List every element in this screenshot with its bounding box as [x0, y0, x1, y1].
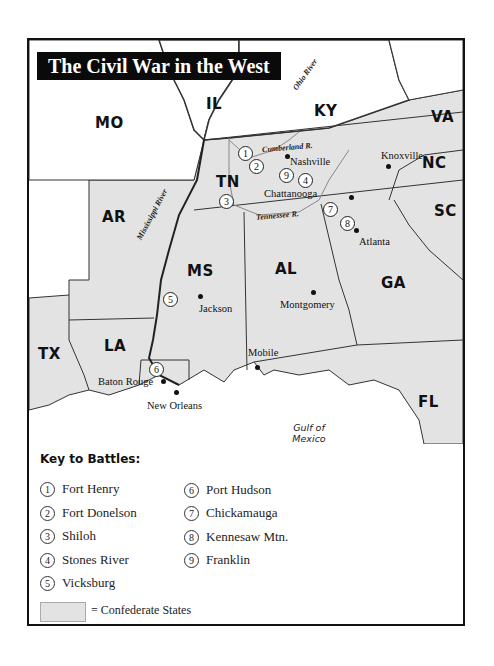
key-item-1: 1 Fort Henry [40, 481, 119, 497]
city-label-atlanta: Atlanta [359, 236, 390, 247]
state-label-nc: NC [422, 154, 447, 172]
key-label-3: Shiloh [62, 528, 96, 544]
key-label-5: Vicksburg [62, 575, 115, 591]
state-label-ms: MS [187, 262, 214, 280]
key-item-9: 9 Franklin [184, 552, 250, 568]
key-label-6: Port Hudson [206, 482, 271, 498]
map-frame: The Civil War in the West MO IL KY VA NC… [27, 38, 465, 626]
battle-marker-3: 3 [219, 194, 234, 209]
key-item-6: 6 Port Hudson [184, 482, 271, 498]
water-label-gulf-of-mexico: Gulf of Mexico [279, 422, 339, 444]
city-label-new-orleans: New Orleans [147, 400, 202, 411]
key-item-4: 4 Stones River [40, 552, 129, 568]
key-label-8: Kennesaw Mtn. [206, 529, 288, 545]
state-label-va: VA [431, 108, 454, 126]
key-number-4: 4 [40, 553, 55, 568]
key-item-2: 2 Fort Donelson [40, 505, 137, 521]
city-label-nashville: Nashville [290, 156, 330, 167]
battle-key: Key to Battles: 1 Fort Henry 2 Fort Done… [29, 444, 463, 624]
key-label-1: Fort Henry [62, 481, 119, 497]
map-title: The Civil War in the West [37, 52, 281, 80]
confederate-legend-swatch [40, 602, 86, 622]
city-dot-montgomery [311, 290, 316, 295]
key-number-6: 6 [184, 483, 199, 498]
key-number-8: 8 [184, 530, 199, 545]
key-number-1: 1 [40, 482, 55, 497]
map-area: The Civil War in the West MO IL KY VA NC… [29, 40, 463, 444]
battle-marker-2: 2 [249, 159, 264, 174]
city-label-knoxville: Knoxville [381, 150, 423, 161]
battle-marker-1: 1 [238, 146, 253, 161]
key-item-7: 7 Chickamauga [184, 505, 277, 521]
key-title: Key to Battles: [40, 452, 140, 466]
city-label-baton-rouge: Baton Rouge [98, 376, 153, 387]
confederate-legend-label: = Confederate States [91, 603, 191, 618]
state-label-la: LA [104, 337, 126, 355]
key-label-2: Fort Donelson [62, 505, 137, 521]
city-label-jackson: Jackson [199, 303, 232, 314]
key-item-5: 5 Vicksburg [40, 575, 115, 591]
city-dot-jackson [198, 294, 203, 299]
battle-marker-6: 6 [149, 362, 164, 377]
city-dot-atlanta [354, 228, 359, 233]
map-svg [29, 40, 463, 444]
state-label-tn: TN [216, 173, 240, 191]
key-number-2: 2 [40, 506, 55, 521]
city-dot-new-orleans [174, 390, 179, 395]
state-label-sc: SC [434, 202, 457, 220]
state-label-tx: TX [38, 345, 61, 363]
state-label-fl: FL [418, 393, 439, 411]
city-dot-chattanooga [349, 195, 354, 200]
state-label-mo: MO [95, 114, 124, 132]
key-label-4: Stones River [62, 552, 129, 568]
key-number-9: 9 [184, 553, 199, 568]
battle-marker-5: 5 [163, 292, 178, 307]
water-label-line1: Gulf of [279, 422, 339, 433]
key-number-7: 7 [184, 506, 199, 521]
city-dot-knoxville [386, 164, 391, 169]
state-label-ky: KY [314, 102, 338, 120]
battle-marker-8: 8 [340, 216, 355, 231]
key-item-3: 3 Shiloh [40, 528, 96, 544]
battle-marker-4: 4 [298, 173, 313, 188]
key-number-3: 3 [40, 529, 55, 544]
state-label-ga: GA [381, 274, 406, 292]
battle-marker-9: 9 [279, 168, 294, 183]
key-number-5: 5 [40, 576, 55, 591]
city-dot-baton-rouge [161, 379, 166, 384]
city-label-mobile: Mobile [248, 347, 278, 358]
key-label-9: Franklin [206, 552, 250, 568]
battle-marker-7: 7 [323, 202, 338, 217]
state-label-al: AL [275, 260, 297, 278]
water-label-line2: Mexico [279, 433, 339, 444]
state-label-ar: AR [102, 208, 126, 226]
city-dot-mobile [255, 365, 260, 370]
city-label-montgomery: Montgomery [280, 299, 335, 310]
state-label-il: IL [206, 95, 222, 113]
key-item-8: 8 Kennesaw Mtn. [184, 529, 288, 545]
city-label-chattanooga: Chattanooga [264, 188, 317, 199]
key-label-7: Chickamauga [206, 505, 277, 521]
